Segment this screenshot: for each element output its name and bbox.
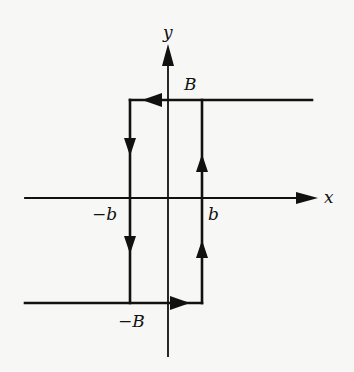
left-threshold-label: −b [92, 206, 117, 223]
arrow-up-right-lower-icon [196, 240, 208, 258]
x-axis-arrow-icon [296, 192, 318, 204]
y-axis-arrow-icon [162, 44, 174, 66]
hysteresis-diagram [0, 0, 354, 372]
arrow-down-left-upper-icon [124, 138, 136, 156]
right-threshold-label: b [208, 206, 219, 223]
arrow-up-right-upper-icon [196, 154, 208, 172]
arrow-right-lower-icon [170, 296, 190, 310]
arrow-left-upper-icon [142, 93, 162, 107]
lower-level-label: −B [118, 313, 145, 330]
y-axis-label: y [163, 24, 173, 41]
upper-level-label: B [184, 76, 197, 93]
arrow-down-left-lower-icon [124, 236, 136, 254]
x-axis-label: x [324, 189, 334, 206]
